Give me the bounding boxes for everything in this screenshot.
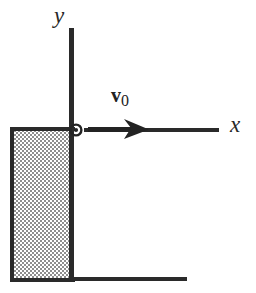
y-axis-line (69, 28, 74, 281)
hatched-block-fill (12, 130, 73, 280)
physics-diagram-figure: y x v0 (0, 0, 256, 293)
hatched-block-bottom-border (10, 278, 75, 282)
y-axis-label: y (54, 4, 64, 27)
diagram-canvas (0, 0, 256, 293)
hatched-block-left-border (10, 127, 14, 282)
origin-point-marker-dot (74, 128, 78, 132)
x-axis-label: x (230, 113, 240, 136)
velocity-subscript: 0 (121, 92, 129, 109)
velocity-symbol: v (111, 84, 121, 106)
velocity-vector-label: v0 (111, 85, 129, 105)
ground-line (72, 277, 187, 281)
hatched-block-top-border (10, 127, 75, 131)
